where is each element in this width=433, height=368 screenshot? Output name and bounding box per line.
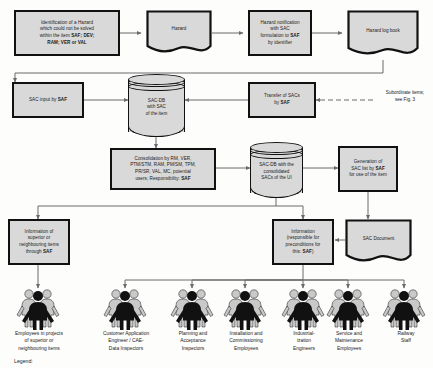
- actor-service-maintenance-employees: Service andMaintenanceEmployees: [317, 330, 381, 352]
- actor-group-layer: [0, 288, 433, 330]
- actor-installation-commissioning-employees: Installation andCommissioningEmployees: [208, 330, 284, 352]
- sac-db-consolidated-label: SAC-DB with theconsolidatedSACs of the U…: [250, 142, 303, 198]
- actor-customer-application-engineer: Customer ApplicationEngineer / CAE-Data …: [85, 330, 167, 352]
- information-superior-items-label: Information ofsuperior orneighbouring it…: [12, 229, 66, 256]
- consolidation-box[interactable]: Consolidation by RM, VER,PTM/STM, RAM, P…: [110, 148, 216, 190]
- sac-input-by-saf-label: SAC input by SAF: [16, 97, 80, 104]
- information-superior-items-box[interactable]: Information ofsuperior orneighbouring it…: [8, 219, 70, 265]
- hazard-log-book-label: Hazard log book: [347, 10, 419, 52]
- hazard-document[interactable]: Hazard: [146, 10, 212, 56]
- transfer-of-sacs-box[interactable]: Transfer of SACsby SAF: [248, 82, 316, 118]
- hazard-document-label: Hazard: [146, 10, 212, 48]
- sac-document[interactable]: SAC Document: [345, 219, 412, 267]
- generation-of-sac-list-box[interactable]: Generation ofSAC list by SAFfor use of t…: [338, 146, 398, 192]
- information-preconditions-box[interactable]: Information(responsible forpreconditions…: [272, 219, 334, 265]
- hazard-notification-box[interactable]: Hazard notificationwith SACformulation t…: [248, 10, 312, 56]
- hazard-notification-label: Hazard notificationwith SACformulation t…: [252, 20, 308, 47]
- actor-figures: [0, 288, 433, 330]
- flowchart-diagram: Identification of a Hazardwhich could no…: [0, 0, 433, 368]
- sac-db-of-item-label: SAC-DBwith SACof the item: [128, 74, 185, 137]
- actor-railway-staff: RailwayStaff: [380, 330, 432, 345]
- generation-of-sac-list-label: Generation ofSAC list by SAFfor use of t…: [342, 159, 394, 179]
- sac-db-of-item-cylinder[interactable]: SAC-DBwith SACof the item: [128, 74, 185, 137]
- sac-input-by-saf-box[interactable]: SAC input by SAF: [12, 82, 84, 118]
- legend-label: Legend:: [14, 358, 33, 364]
- information-preconditions-label: Information(responsible forpreconditions…: [276, 229, 330, 256]
- subordinate-items-note: Subordinate items;see Fig. 3: [377, 90, 433, 104]
- sac-db-consolidated-cylinder[interactable]: SAC-DB with theconsolidatedSACs of the U…: [250, 142, 303, 198]
- sac-document-label: SAC Document: [345, 219, 412, 259]
- actor-employees-superior-items: Employees in projectsof superior orneigh…: [0, 330, 80, 352]
- hazard-log-book-document[interactable]: Hazard log book: [347, 10, 419, 60]
- consolidation-label: Consolidation by RM, VER,PTM/STM, RAM, P…: [114, 156, 212, 183]
- transfer-of-sacs-label: Transfer of SACsby SAF: [252, 93, 312, 106]
- identification-of-hazard-label: Identification of a Hazardwhich could no…: [18, 20, 116, 47]
- identification-of-hazard-box[interactable]: Identification of a Hazardwhich could no…: [14, 10, 120, 56]
